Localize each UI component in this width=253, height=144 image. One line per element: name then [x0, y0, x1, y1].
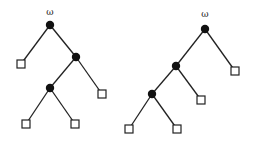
tree-edge [26, 88, 50, 124]
inner-node-low [148, 90, 156, 98]
leaf-node [98, 90, 106, 98]
tree-edge [50, 25, 76, 57]
leaf-node [125, 125, 133, 133]
inner-node-mid [172, 62, 180, 70]
edges [21, 25, 102, 124]
tree-edge [50, 88, 75, 124]
leaf-node [173, 125, 181, 133]
edges [129, 29, 235, 129]
tree-edge [205, 29, 235, 71]
tree-edge [50, 57, 76, 88]
tree-edge [176, 66, 201, 100]
tree-edge [76, 57, 102, 94]
tree-edge [176, 29, 205, 66]
leaf-node [71, 120, 79, 128]
inner-node-root [201, 25, 209, 33]
leaf-node [197, 96, 205, 104]
tree-edge [21, 25, 50, 64]
left-tree: ω [17, 7, 106, 128]
tree-edge [129, 94, 152, 129]
leaf-node [17, 60, 25, 68]
right-tree: ω [125, 9, 239, 133]
inner-node-mid [72, 53, 80, 61]
inner-node-root [46, 21, 54, 29]
leaf-node [231, 67, 239, 75]
inner-node-low [46, 84, 54, 92]
tree-edge [152, 66, 176, 94]
tree-edge [152, 94, 177, 129]
tree-diagram: ω ω [0, 0, 253, 144]
leaf-node [22, 120, 30, 128]
root-label: ω [201, 9, 208, 19]
root-label: ω [46, 7, 53, 17]
